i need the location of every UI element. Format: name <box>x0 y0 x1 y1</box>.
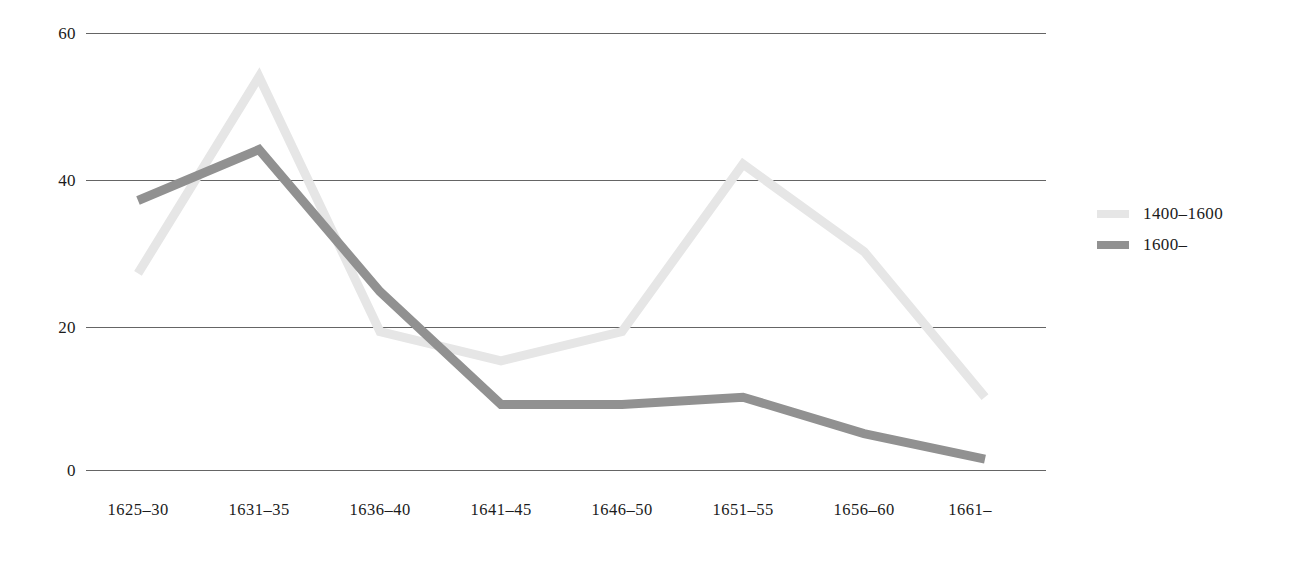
chart-legend: 1400–1600 1600– <box>1097 198 1272 260</box>
series-line-1600 <box>138 150 985 460</box>
legend-swatch-icon-1400-1600 <box>1097 210 1129 218</box>
x-axis-label-1661: 1661– <box>890 500 1050 520</box>
series-layer <box>0 0 1289 564</box>
legend-label-1600: 1600– <box>1143 235 1188 255</box>
line-chart: 60 40 20 0 1625–30 1631–35 1636–40 1641–… <box>0 0 1289 564</box>
legend-label-1400-1600: 1400–1600 <box>1143 204 1223 224</box>
legend-item-1600: 1600– <box>1097 229 1272 260</box>
series-line-1400-1600 <box>138 77 985 398</box>
legend-item-1400-1600: 1400–1600 <box>1097 198 1272 229</box>
legend-swatch-icon-1600 <box>1097 241 1129 249</box>
